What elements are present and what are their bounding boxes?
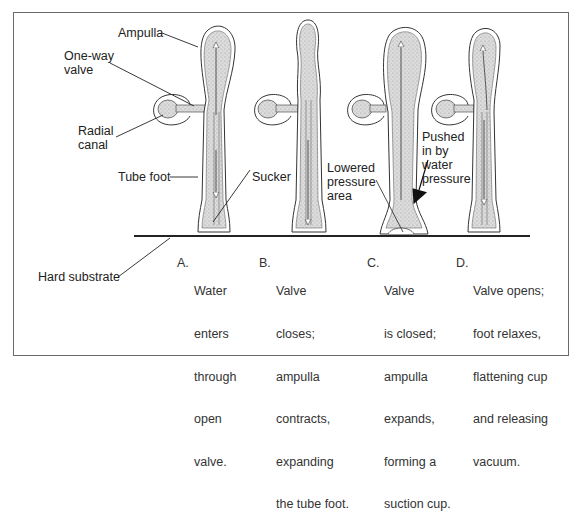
pushed-line-4: pressure — [422, 172, 471, 186]
pushed-line-1: Pushed — [422, 130, 471, 144]
stage-letter: A. — [177, 256, 189, 270]
pushed-by-water-pressure-label: Pushed in by water pressure — [422, 130, 471, 186]
stage-text: Valve closes; ampulla contracts, expandi… — [276, 256, 349, 515]
stage-text: Valve opens; foot relaxes, flattening cu… — [473, 256, 548, 497]
substrate-leader — [118, 238, 170, 277]
stage-letter: C. — [367, 256, 380, 270]
caption-line: is closed; — [384, 327, 451, 341]
radial-canal-leader — [116, 115, 163, 137]
caption-line: foot relaxes, — [473, 327, 548, 341]
caption-line: closes; — [276, 327, 349, 341]
hard-substrate-label: Hard substrate — [38, 270, 120, 284]
caption-line: through — [194, 370, 236, 384]
caption-line: Valve — [384, 284, 451, 298]
one-way-valve-label: One-way valve — [64, 49, 114, 77]
stage-d-caption: D. Valve opens; foot relaxes, flattening… — [456, 256, 566, 346]
one-way-valve-line-2: valve — [64, 63, 114, 77]
stage-text: Valve is closed; ampulla expands, formin… — [384, 256, 451, 515]
caption-line: the tube foot. — [276, 497, 349, 511]
lowered-pressure-line-3: area — [327, 189, 376, 203]
caption-line: forming a — [384, 455, 451, 469]
ampulla-label: Ampulla — [118, 26, 163, 40]
tube-foot-a — [154, 26, 235, 232]
lowered-pressure-line-1: Lowered — [327, 161, 376, 175]
stage-a-caption: A. Water enters through open valve. — [177, 256, 257, 346]
radial-canal-line-2: canal — [78, 138, 113, 152]
caption-line: ampulla — [384, 370, 451, 384]
radial-canal-label: Radial canal — [78, 124, 113, 152]
sucker-label: Sucker — [252, 170, 291, 184]
stage-letter: D. — [456, 256, 469, 270]
lowered-pressure-line-2: pressure — [327, 175, 376, 189]
ampulla-leader — [162, 33, 198, 47]
caption-line: open — [194, 412, 236, 426]
caption-line: suction cup. — [384, 497, 451, 511]
tube-foot-b — [255, 20, 326, 232]
caption-line: Water — [194, 284, 236, 298]
caption-line: enters — [194, 327, 236, 341]
caption-line: expands, — [384, 412, 451, 426]
caption-line: expanding — [276, 455, 349, 469]
radial-canal-line-1: Radial — [78, 124, 113, 138]
pushed-line-3: water — [422, 158, 471, 172]
caption-line: Valve — [276, 284, 349, 298]
caption-line: flattening cup — [473, 370, 548, 384]
caption-line: contracts, — [276, 412, 349, 426]
stage-c-caption: C. Valve is closed; ampulla expands, for… — [367, 256, 467, 346]
stage-text: Water enters through open valve. — [194, 256, 236, 497]
caption-line: ampulla — [276, 370, 349, 384]
stage-letter: B. — [259, 256, 271, 270]
caption-line: valve. — [194, 455, 236, 469]
tube-foot-label: Tube foot — [118, 170, 170, 184]
lowered-pressure-area-label: Lowered pressure area — [327, 161, 376, 203]
stage-b-caption: B. Valve closes; ampulla contracts, expa… — [259, 256, 359, 346]
caption-line: vacuum. — [473, 455, 548, 469]
caption-line: Valve opens; — [473, 284, 548, 298]
caption-line: and releasing — [473, 412, 548, 426]
pushed-line-2: in by — [422, 144, 471, 158]
valve-leader — [110, 63, 194, 106]
one-way-valve-line-1: One-way — [64, 49, 114, 63]
tube-foot-c — [348, 27, 428, 234]
